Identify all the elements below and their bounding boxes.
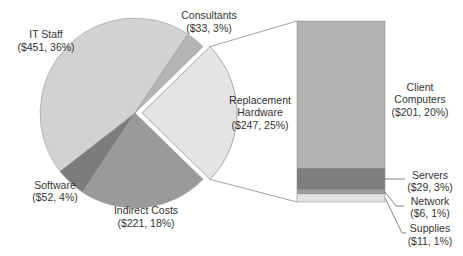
label-it-staff-value: ($451, 36%)	[17, 41, 74, 53]
label-servers: Servers	[412, 169, 448, 181]
label-client-computers: Client	[407, 81, 434, 93]
label-network-value: ($6, 1%)	[410, 207, 450, 219]
label-replacement-hardware: Replacement	[229, 94, 291, 106]
label-it-staff: IT Staff	[29, 28, 63, 40]
leader-supplies	[385, 198, 406, 233]
label-client-computers-value: ($201, 20%)	[391, 106, 448, 118]
bar-segment-supplies	[297, 194, 385, 202]
label-network: Network	[411, 195, 450, 207]
label-software-value: ($52, 4%)	[32, 191, 78, 203]
label-consultants-value: ($33, 3%)	[186, 22, 232, 34]
label-software: Software	[34, 179, 76, 191]
label-client-computers-2: Computers	[394, 93, 445, 105]
label-replacement-hardware-value: ($247, 25%)	[231, 119, 288, 131]
label-replacement-hardware-2: Hardware	[237, 106, 283, 118]
bar-of-pie-chart: IT Staff ($451, 36%) Consultants ($33, 3…	[0, 0, 463, 256]
label-indirect-costs-value: ($221, 18%)	[117, 217, 174, 229]
bar-segment-client-computers	[297, 21, 385, 168]
leader-lines	[385, 179, 406, 233]
label-indirect-costs: Indirect Costs	[114, 204, 178, 216]
label-consultants: Consultants	[181, 9, 236, 21]
stacked-bar	[297, 21, 385, 202]
label-supplies-value: ($11, 1%)	[408, 235, 453, 247]
label-supplies: Supplies	[410, 222, 450, 234]
bar-segment-servers	[297, 168, 385, 189]
bar-segment-network	[297, 190, 385, 194]
label-servers-value: ($29, 3%)	[407, 181, 453, 193]
connector-bottom	[210, 179, 297, 202]
